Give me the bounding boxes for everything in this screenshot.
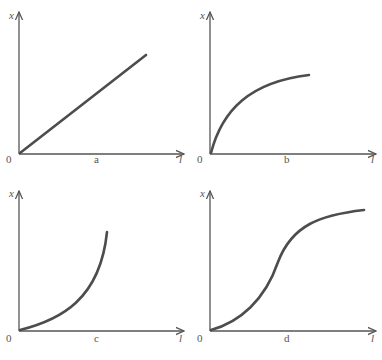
origin-label: 0 (197, 332, 203, 344)
origin-label: 0 (6, 332, 12, 344)
curve-d (211, 210, 364, 330)
x-axis-label: l (371, 332, 374, 344)
panel-c: x l 0 c (6, 187, 184, 344)
y-axis-label: x (8, 187, 14, 199)
panel-a: x l 0 a (6, 9, 184, 165)
y-axis-label: x (199, 9, 205, 21)
panel-caption: d (284, 332, 290, 344)
x-axis-label: l (371, 153, 374, 165)
panel-d: x l 0 d (197, 187, 376, 344)
x-axis-label: l (179, 332, 182, 344)
y-axis-label: x (8, 9, 14, 21)
curve-b (211, 75, 309, 153)
panel-caption: c (94, 332, 99, 344)
panel-b: x l 0 b (197, 9, 376, 165)
panel-caption: a (94, 153, 99, 165)
panel-caption: b (284, 153, 290, 165)
figure-four-graphs: x l 0 a x l 0 b x l 0 c x l 0 d (0, 0, 382, 360)
curve-c (20, 232, 107, 330)
x-axis-label: l (179, 153, 182, 165)
line-a (20, 55, 146, 153)
y-axis-label: x (199, 187, 205, 199)
origin-label: 0 (197, 153, 203, 165)
origin-label: 0 (6, 153, 12, 165)
